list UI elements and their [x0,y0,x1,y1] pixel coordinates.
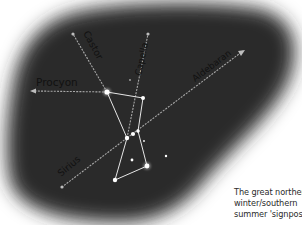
sword-star [131,159,134,162]
saiph-star [113,178,117,182]
caption-line-3: summer 'signpost' [234,209,302,220]
belt-star-3 [136,129,140,133]
figure-caption: The great northern winter/southern summe… [234,187,302,220]
castor-end-dot [71,32,74,35]
bellatrix-star [141,96,145,100]
capella-end-dot [146,32,149,35]
belt-star-1 [125,136,129,140]
betelgeuse-star [104,89,109,94]
rigel-star [145,164,150,169]
procyon-label: Procyon [36,76,78,88]
faint-star-1 [165,155,167,157]
meissa-star [129,79,131,81]
faint-star-2 [143,140,145,142]
belt-star-2 [131,132,135,136]
caption-line-1: The great northern [234,187,302,198]
sirius-end-dot [60,185,63,188]
caption-line-2: winter/southern [234,198,302,209]
